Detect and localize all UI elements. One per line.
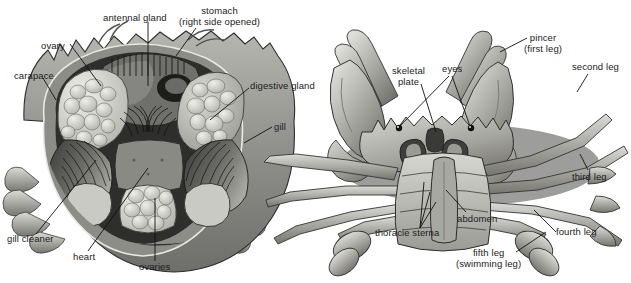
label-heart: heart [73, 252, 95, 263]
label-stomach: stomach (right side opened) [179, 6, 260, 27]
gill-cleaner-right [184, 183, 230, 226]
label-pincer-line2: (first leg) [524, 44, 562, 55]
label-fifth-leg-line1: fifth leg [456, 248, 521, 259]
label-gill-cleaner: gill cleaner [7, 234, 54, 245]
label-second-leg: second leg [572, 62, 619, 73]
label-pincer: pincer (first leg) [524, 33, 562, 54]
label-skeletal-plate-line2: plate [392, 77, 425, 88]
fifth-leg-left [324, 216, 400, 281]
label-thoracic-sterna: thoracie sterna [375, 228, 439, 239]
leader-second-leg [577, 74, 588, 92]
label-fifth-leg: fifth leg (swimming leg) [456, 248, 521, 269]
label-eyes: eyes [442, 64, 462, 75]
label-pincer-line1: pincer [524, 33, 562, 44]
heart-region [115, 140, 183, 192]
label-skeletal-plate-line1: skeletal [392, 66, 425, 77]
label-carapace: carapace [14, 71, 54, 82]
label-ovaries: ovaries [139, 262, 170, 273]
label-fourth-leg: fourth leg [556, 227, 597, 238]
eye-left [396, 125, 402, 131]
label-third-leg: third leg [572, 172, 607, 183]
label-fifth-leg-line2: (swimming leg) [456, 259, 521, 270]
gill-cleaner-left [66, 183, 112, 226]
eye-right [468, 125, 474, 131]
label-ovary: ovary [41, 41, 65, 52]
label-gill: gill [274, 122, 286, 133]
label-stomach-line1: stomach [179, 6, 260, 17]
skeletal-plate [426, 128, 444, 152]
label-antennal-gland: antennal gland [103, 13, 167, 24]
leader-pincer [500, 38, 527, 52]
label-abdomen: abdomen [457, 214, 497, 225]
ovaries-lower [120, 185, 177, 233]
label-stomach-line2: (right side opened) [179, 17, 260, 28]
label-skeletal-plate: skeletal plate [392, 66, 425, 87]
label-digestive-gland: digestive gland [250, 81, 315, 92]
crab-anatomy-figure: antennal gland stomach (right side opene… [0, 0, 631, 283]
